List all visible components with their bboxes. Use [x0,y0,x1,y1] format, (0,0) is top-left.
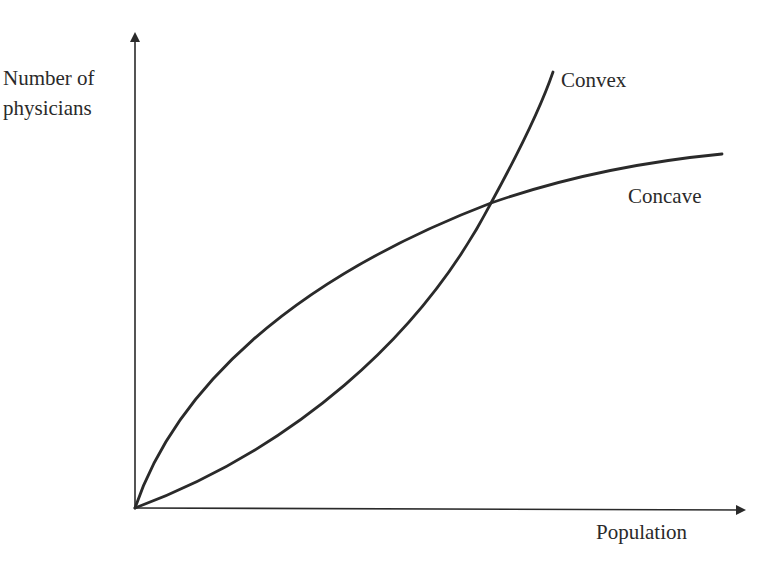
convex-curve [135,72,553,508]
y-axis-label-line2: physicians [3,98,92,119]
x-axis [134,508,744,510]
concave-label: Concave [628,186,701,207]
x-axis-label: Population [596,522,687,543]
y-axis-label-line1: Number of [3,68,95,89]
convex-label: Convex [561,70,626,91]
diagram-svg [0,0,764,562]
diagram: Number of physicians Convex Concave Popu… [0,0,764,562]
